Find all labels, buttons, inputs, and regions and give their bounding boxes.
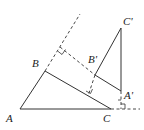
segment-BC	[45, 71, 111, 109]
geometry-diagram: A B C A' B' C'	[0, 0, 144, 130]
label-B-prime: B'	[88, 53, 98, 65]
right-angle-marker-AB	[58, 50, 66, 55]
label-B: B	[32, 57, 39, 69]
segment-B-prime-C-prime	[95, 28, 121, 75]
right-angle-marker-AC	[121, 104, 125, 109]
segment-AB	[20, 71, 45, 109]
label-C-prime: C'	[123, 15, 133, 27]
label-C: C	[103, 112, 111, 124]
segment-A-prime-B-prime	[95, 75, 121, 91]
extension-AB-dashed	[45, 14, 80, 71]
label-A: A	[5, 112, 13, 124]
label-A-prime: A'	[123, 89, 134, 101]
